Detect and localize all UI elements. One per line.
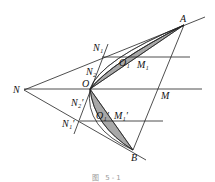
label-O: O — [82, 79, 89, 89]
line-NB — [24, 90, 146, 160]
label-A: A — [180, 14, 186, 24]
label-N2-prime: N₂′ — [71, 98, 83, 108]
label-N2: N₂ — [86, 67, 96, 77]
label-M1-prime: M₁′ — [114, 111, 128, 121]
label-N1-prime: N₁′ — [62, 119, 74, 129]
label-B: B — [131, 153, 137, 163]
diagram-canvas — [0, 0, 215, 182]
label-O1: O₁ — [119, 58, 130, 68]
geometry-figure: A B N O M N₁ N₂ O₁ M₁ N₂′ N₁′ O₁′ M₁′ 图 … — [0, 0, 215, 182]
line-AB — [133, 25, 184, 150]
label-N1: N₁ — [93, 43, 103, 53]
figure-caption: 图 5-1 — [92, 172, 123, 182]
label-O1-prime: O₁′ — [96, 111, 109, 121]
label-N: N — [13, 85, 20, 95]
label-M1: M₁ — [137, 60, 149, 70]
label-M: M — [161, 91, 169, 101]
